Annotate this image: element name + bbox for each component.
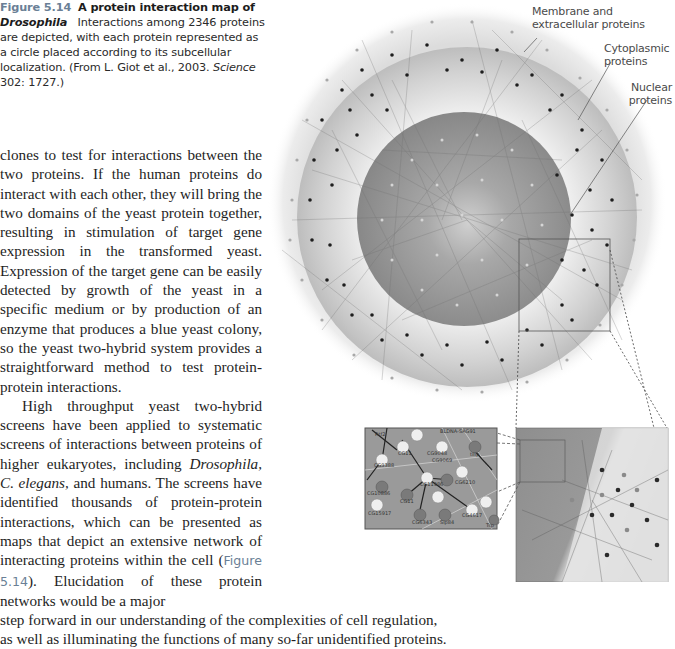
para2-after-ref: ). Elucidation of these protein networks… bbox=[0, 572, 262, 609]
figure-title-italic: Drosophila bbox=[0, 16, 67, 29]
paragraph-2: High throughput yeast two-hybrid screens… bbox=[0, 396, 262, 610]
svg-text:Rtf2: Rtf2 bbox=[375, 431, 385, 437]
svg-text:CG6210: CG6210 bbox=[455, 479, 475, 485]
label-membrane: Membrane and extracellular proteins bbox=[532, 5, 645, 31]
label-membrane-line1: Membrane and bbox=[532, 5, 645, 18]
zoom-panel-small: Rtf2 BLDNA-SAG91 CG9388 CG11 CG9048 CG90… bbox=[365, 428, 499, 529]
svg-text:CG4617: CG4617 bbox=[462, 512, 482, 518]
svg-text:tilip: tilip bbox=[470, 451, 479, 458]
caption-citation: 302: 1727.) bbox=[0, 76, 64, 89]
wide-line-2: as well as illuminating the functions of… bbox=[0, 629, 530, 648]
svg-text:CG11986: CG11986 bbox=[420, 481, 443, 487]
caption-journal: Science bbox=[213, 61, 256, 74]
svg-text:CG15917: CG15917 bbox=[368, 510, 391, 516]
label-nuclear-line2: proteins bbox=[628, 94, 672, 107]
svg-text:CG11: CG11 bbox=[398, 450, 412, 456]
zoom-panel-large bbox=[516, 428, 668, 582]
svg-text:CG9388: CG9388 bbox=[374, 462, 394, 468]
figure-number: Figure 5.14 bbox=[0, 1, 71, 14]
svg-text:CG9069: CG9069 bbox=[432, 457, 452, 463]
figure-title: A protein interaction map of bbox=[78, 1, 255, 14]
svg-text:CG9048: CG9048 bbox=[427, 450, 447, 456]
protein-map-graphic: Rtf2 BLDNA-SAG91 CG9388 CG11 CG9048 CG90… bbox=[262, 0, 675, 582]
label-membrane-line2: extracellular proteins bbox=[532, 18, 645, 31]
svg-text:CG11: CG11 bbox=[400, 498, 414, 504]
wide-line-1: step forward in our understanding of the… bbox=[0, 610, 530, 629]
paragraph-1: clones to test for interactions between … bbox=[0, 145, 262, 396]
figure-caption: Figure 5.14 A protein interaction map of… bbox=[0, 0, 265, 90]
wide-lines: step forward in our understanding of the… bbox=[0, 610, 530, 649]
label-nuclear: Nuclear proteins bbox=[628, 81, 672, 107]
label-nuclear-line1: Nuclear bbox=[628, 81, 672, 94]
svg-text:Sip84: Sip84 bbox=[440, 519, 454, 526]
label-cyto-line1: Cytoplasmic bbox=[604, 42, 669, 55]
label-cyto-line2: proteins bbox=[604, 55, 669, 68]
label-cytoplasmic: Cytoplasmic proteins bbox=[604, 42, 669, 68]
svg-text:Tsp: Tsp bbox=[485, 522, 494, 529]
svg-text:CG10886: CG10886 bbox=[367, 490, 390, 496]
protein-interaction-figure: Rtf2 BLDNA-SAG91 CG9388 CG11 CG9048 CG90… bbox=[262, 0, 675, 582]
text-column: clones to test for interactions between … bbox=[0, 145, 262, 610]
svg-text:BLDNA-SAG91: BLDNA-SAG91 bbox=[440, 428, 476, 434]
svg-text:CG6343: CG6343 bbox=[412, 519, 432, 525]
